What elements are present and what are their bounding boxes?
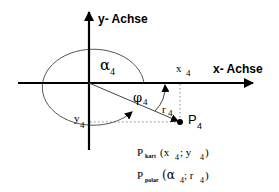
x4-sub: 4 — [186, 68, 191, 78]
svg-text:; y: ; y — [180, 146, 192, 158]
svg-text:4: 4 — [200, 153, 204, 162]
svg-text:4: 4 — [175, 153, 179, 162]
phi-sub: 4 — [143, 97, 148, 107]
x-axis-label: x- Achse — [213, 62, 263, 76]
cartesian-formula: P kart (x 4 ; y 4 ) — [137, 146, 209, 162]
svg-text:kart: kart — [145, 153, 156, 159]
point-p4 — [177, 119, 183, 125]
svg-text:polar: polar — [145, 177, 159, 183]
y-axis-label: y- Achse — [98, 12, 148, 26]
coordinate-diagram: y- Achse x- Achse α 4 x 4 φ 4 r 4 y 4 P … — [0, 0, 279, 192]
svg-text:4: 4 — [200, 176, 204, 185]
r-label: r — [162, 103, 166, 115]
r-sub: 4 — [168, 108, 173, 118]
p4-label: P — [188, 112, 197, 127]
svg-text:; r: ; r — [184, 169, 194, 181]
svg-text:): ) — [205, 146, 209, 159]
polar-formula: P polar (α 4 ; r 4 ) — [137, 168, 209, 185]
svg-text:(α: (α — [162, 168, 175, 182]
x4-label: x — [176, 62, 182, 74]
alpha-arc — [42, 49, 144, 125]
p4-sub: 4 — [197, 121, 202, 131]
svg-text:(x: (x — [160, 146, 170, 159]
alpha-label: α — [100, 56, 110, 74]
svg-text:P: P — [137, 146, 143, 158]
y4-sub: 4 — [80, 120, 85, 130]
alpha-sub: 4 — [110, 66, 115, 77]
svg-text:): ) — [205, 169, 209, 182]
phi-label: φ — [133, 90, 142, 105]
svg-text:P: P — [137, 169, 143, 181]
